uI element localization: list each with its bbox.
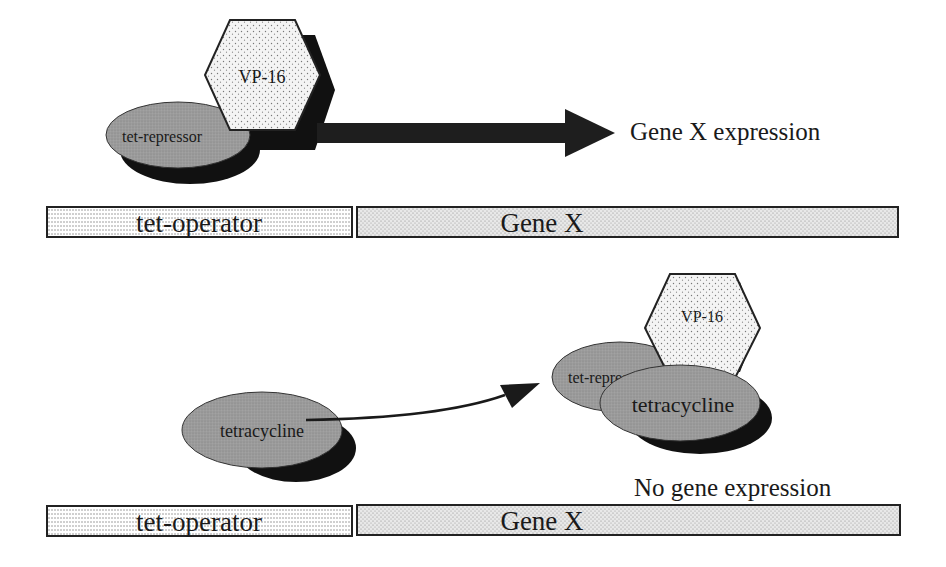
tet-operator-label: tet-operator bbox=[136, 208, 262, 238]
tet-operator-label-bottom: tet-operator bbox=[136, 507, 262, 537]
tetracycline-label: tetracycline bbox=[220, 421, 304, 441]
top-panel: VP-16 tet-repressor Gene X expression te… bbox=[47, 20, 898, 238]
bottom-panel: tetracycline VP-16 tet-repressor tetracy… bbox=[47, 274, 900, 537]
tet-system-diagram: VP-16 tet-repressor Gene X expression te… bbox=[0, 0, 946, 567]
no-gene-expression-label: No gene expression bbox=[634, 474, 832, 501]
gene-x-label-bottom: Gene X bbox=[500, 506, 584, 536]
gene-x-bar bbox=[357, 207, 898, 237]
gene-expression-label: Gene X expression bbox=[630, 118, 821, 145]
complex-tetracycline-label: tetracycline bbox=[632, 392, 735, 417]
expression-arrow bbox=[317, 109, 615, 157]
complex-vp16-hexagon bbox=[645, 274, 760, 378]
complex-vp16-label: VP-16 bbox=[681, 308, 723, 325]
gene-x-bar-bottom bbox=[357, 505, 900, 535]
vp16-label: VP-16 bbox=[238, 67, 285, 87]
binding-arrowhead bbox=[500, 383, 540, 408]
tet-repressor-label: tet-repressor bbox=[122, 128, 203, 146]
gene-x-label: Gene X bbox=[500, 208, 584, 238]
